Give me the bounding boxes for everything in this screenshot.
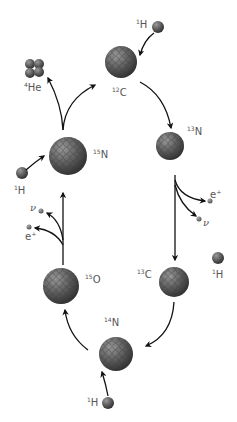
- label-neutrino-right: ν: [203, 218, 209, 228]
- label-neutrino-left: ν: [30, 203, 36, 213]
- label-n13: 13N: [187, 127, 202, 137]
- label-positron-right: e⁺: [210, 190, 221, 200]
- arrow-c12-to-n13: [140, 82, 171, 128]
- label-h-left: 1H: [14, 186, 25, 196]
- label-he4: 4He: [24, 83, 42, 93]
- proton-right: [212, 252, 224, 264]
- nucleus-n15: [49, 137, 87, 175]
- proton-top: [152, 21, 164, 33]
- arrow-positron-left: [35, 228, 63, 245]
- arrow-neutrino-right: [175, 185, 196, 216]
- arrow-proton-to-n15: [26, 156, 44, 170]
- neutrino-left: [39, 209, 44, 214]
- label-h-bottom: 1H: [87, 398, 98, 408]
- arrow-c13-to-n14: [146, 302, 174, 346]
- label-c12: 12C: [112, 88, 127, 98]
- label-n14: 14N: [104, 318, 119, 328]
- proton-left: [16, 167, 28, 179]
- label-positron-left: e⁺: [25, 232, 36, 242]
- nucleus-c12: [105, 46, 137, 78]
- label-c13: 13C: [137, 270, 152, 280]
- nucleus-n14: [99, 337, 133, 371]
- proton-bottom: [102, 397, 114, 409]
- arrow-n15-to-c12: [63, 85, 95, 130]
- arrow-proton-to-n14: [102, 372, 108, 396]
- arrow-n14-to-o15: [65, 310, 88, 350]
- arrow-n15-to-he4: [48, 78, 63, 130]
- positron-left: [27, 225, 32, 230]
- arrow-proton-to-c12: [140, 33, 154, 55]
- neutrino-right: [197, 217, 202, 222]
- nucleus-c13: [159, 267, 189, 297]
- label-h-top: 1H: [136, 20, 147, 30]
- label-o15: 15O: [85, 275, 101, 285]
- nucleus-he4: [25, 59, 44, 78]
- nucleus-o15: [43, 268, 79, 304]
- nucleus-n13: [156, 132, 184, 160]
- label-n15: 15N: [93, 150, 108, 160]
- label-h-right: 1H: [212, 270, 223, 280]
